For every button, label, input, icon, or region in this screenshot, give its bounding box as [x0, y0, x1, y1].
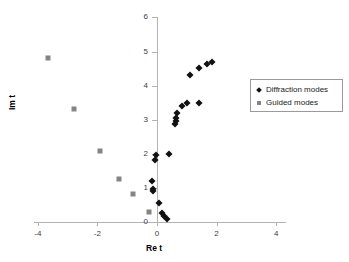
y-tick-label: 3	[134, 115, 148, 124]
data-point	[146, 209, 151, 214]
x-tick-mark	[38, 222, 39, 226]
data-point	[187, 71, 194, 78]
square-marker-icon	[255, 98, 264, 107]
data-point	[195, 65, 202, 72]
y-tick-mark	[152, 17, 157, 18]
x-tick-mark	[97, 222, 98, 226]
x-tick-label: 4	[265, 229, 287, 238]
legend-item-guided-modes: Guided modes	[255, 96, 342, 109]
x-tick-label: -4	[27, 229, 49, 238]
data-point	[97, 149, 102, 154]
y-tick-label: 2	[134, 149, 148, 158]
data-point	[131, 192, 136, 197]
data-point	[195, 99, 202, 106]
y-tick-label: 0	[134, 217, 148, 226]
x-axis-title: Re t	[146, 243, 162, 253]
x-axis-line	[34, 222, 286, 223]
y-tick-label: 1	[134, 183, 148, 192]
diamond-marker-icon	[255, 85, 264, 94]
data-point	[71, 107, 76, 112]
x-tick-mark	[276, 222, 277, 226]
y-tick-label: 6	[134, 12, 148, 21]
data-point	[117, 177, 122, 182]
x-tick-label: 2	[206, 229, 228, 238]
x-tick-label: -2	[86, 229, 108, 238]
x-tick-label: 0	[146, 229, 168, 238]
x-tick-mark	[217, 222, 218, 226]
legend-label: Guided modes	[266, 98, 318, 107]
y-tick-label: 5	[134, 47, 148, 56]
legend-label: Diffraction modes	[266, 85, 328, 94]
y-tick-mark	[152, 86, 157, 87]
scatter-chart: -4-2024 0123456 Re t Im t Diffraction mo…	[0, 0, 349, 262]
data-point	[149, 177, 156, 184]
y-tick-label: 4	[134, 81, 148, 90]
chart-legend: Diffraction modes Guided modes	[250, 79, 343, 112]
data-point	[45, 55, 50, 60]
legend-item-diffraction-modes: Diffraction modes	[255, 83, 342, 96]
data-point	[165, 151, 172, 158]
y-tick-mark	[152, 52, 157, 53]
y-axis-line	[157, 17, 158, 223]
data-point	[174, 109, 181, 116]
y-axis-title: Im t	[7, 95, 17, 110]
y-tick-mark	[152, 120, 157, 121]
x-tick-mark	[157, 222, 158, 226]
